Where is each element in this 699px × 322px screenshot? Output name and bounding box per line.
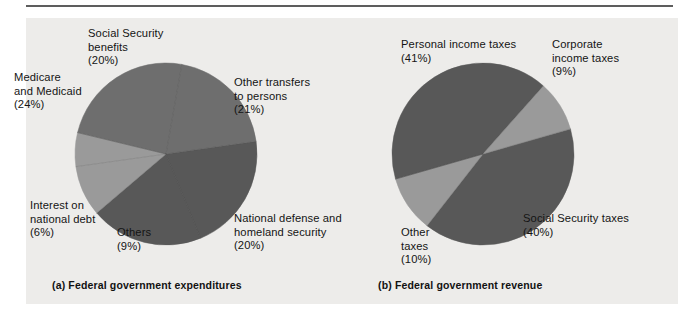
label-corporate-income-taxes: Corporate income taxes (9%) <box>552 38 619 79</box>
label-personal-income-taxes: Personal income taxes (41%) <box>401 38 516 65</box>
label-national-defense-and-homeland-security: National defense and homeland security (… <box>234 212 342 253</box>
caption-federal-government-revenue: (b) Federal government revenue <box>378 279 542 291</box>
label-interest-on-national-debt: Interest on national debt (6%) <box>30 199 95 240</box>
label-others: Others (9%) <box>117 226 151 253</box>
label-other-transfers-to-persons: Other transfers to persons (21%) <box>234 76 310 117</box>
pie-federal-government-expenditures: Other transfers to persons (21%)National… <box>75 63 257 245</box>
label-social-security-taxes: Social Security taxes (40%) <box>523 212 629 239</box>
label-social-security-benefits: Social Security benefits (20%) <box>88 27 164 68</box>
label-medicare-and-medicaid: Medicare and Medicaid (24%) <box>14 71 82 112</box>
label-other-taxes: Other taxes (10%) <box>401 226 431 267</box>
caption-federal-government-expenditures: (a) Federal government expenditures <box>52 279 242 291</box>
figure-root: Other transfers to persons (21%)National… <box>0 0 699 322</box>
